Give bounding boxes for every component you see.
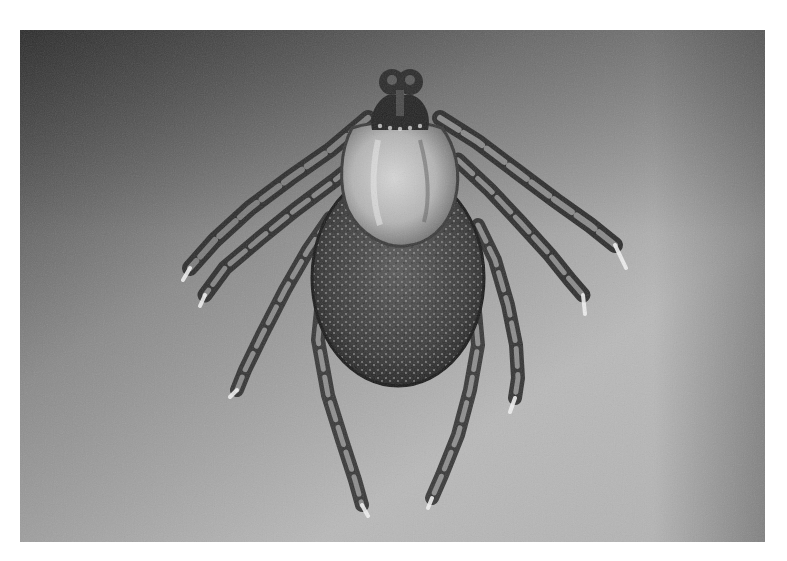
- tick-illustration: [20, 30, 765, 542]
- tick-photograph: Grayscale macro photograph of a hard tic…: [20, 30, 765, 542]
